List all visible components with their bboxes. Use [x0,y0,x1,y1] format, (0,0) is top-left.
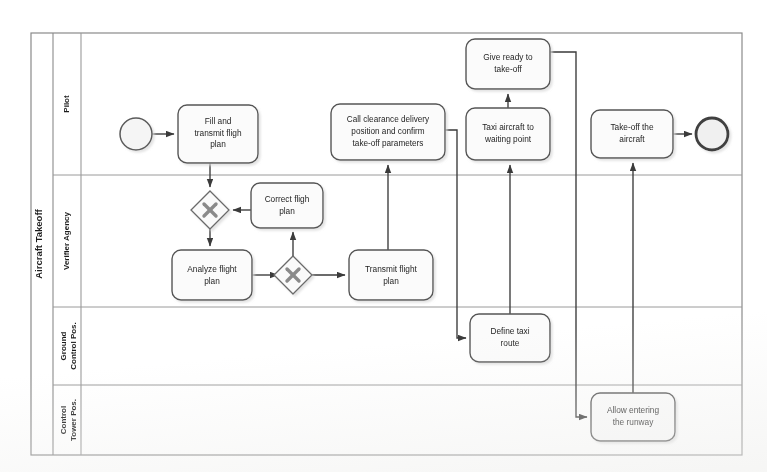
lane-label-pilot: Pilot [62,95,71,113]
aircraft-takeoff-bpmn-diagram: Aircraft Takeoff Pilot Verifier Agency G… [0,0,767,472]
task-label-line1: Take-off the [610,122,654,132]
pool-aircraft-takeoff: Aircraft Takeoff [31,33,742,455]
start-event-circle[interactable] [120,118,152,150]
task-allow-entering-runway[interactable]: Allow entering the runway [591,393,675,441]
task-define-taxi-route[interactable]: Define taxi route [470,314,550,362]
task-label-line2: route [501,338,520,348]
lane-label-ground-control-line1: Ground [59,331,68,360]
lane-label-ground-control-line2: Control Pos. [69,322,78,370]
lane-labels: Pilot Verifier Agency Ground Control Pos… [59,95,78,441]
task-label-line2: plan [279,206,295,216]
task-take-off-the-aircraft[interactable]: Take-off the aircraft [591,110,673,158]
lane-label-control-tower-line2: Tower Pos. [69,399,78,441]
task-label-line2: aircraft [619,134,645,144]
task-label-line3: take-off parameters [353,139,424,148]
task-label-line2: plan [204,276,220,286]
task-label-line1: Allow entering [607,405,660,415]
flow-give-ready-to-allow-entering-runway [550,52,587,417]
task-label-line1: Transmit flight [365,264,417,274]
task-give-ready-to-take-off[interactable]: Give ready to take-off [466,39,550,89]
lane-label-control-tower-line1: Control [59,406,68,434]
task-label-line1: Fill and [205,116,232,126]
lane-label-verifier-agency: Verifier Agency [62,211,71,270]
task-taxi-aircraft-waiting-point[interactable]: Taxi aircraft to waiting point [466,108,550,160]
end-event[interactable] [696,118,728,150]
task-label-line2: transmit fligh [194,128,241,138]
task-label-line2: plan [383,276,399,286]
gateway-plan-check[interactable] [274,256,312,294]
task-call-clearance-delivery[interactable]: Call clearance delivery position and con… [331,104,445,160]
task-label-line2: take-off [494,64,522,74]
bpmn-diagram-canvas: Aircraft Takeoff Pilot Verifier Agency G… [0,0,767,472]
lane-label-ground-control: Ground Control Pos. [59,322,78,370]
task-label-line3: plan [210,139,226,149]
task-label-line1: Give ready to [483,52,533,62]
task-correct-flight-plan[interactable]: Correct fligh plan [251,183,323,228]
task-label-line1: Correct fligh [265,194,310,204]
task-label-line1: Taxi aircraft to [482,122,534,132]
pool-border [31,33,742,455]
pool-label: Aircraft Takeoff [33,208,44,278]
task-label-line2: waiting point [484,134,532,144]
task-label-line1: Define taxi [490,326,529,336]
task-label-line2: the runway [613,417,654,427]
start-event[interactable] [120,118,152,150]
task-label-line1: Analyze flight [187,264,237,274]
end-event-circle[interactable] [696,118,728,150]
task-label-line1: Call clearance delivery [347,115,430,124]
task-analyze-flight-plan[interactable]: Analyze flight plan [172,250,252,300]
lane-label-control-tower: Control Tower Pos. [59,399,78,441]
task-label-line2: position and confirm [351,127,424,136]
gateway-plan-valid[interactable] [191,191,229,229]
task-fill-transmit-flight-plan[interactable]: Fill and transmit fligh plan [178,105,258,163]
task-transmit-flight-plan[interactable]: Transmit flight plan [349,250,433,300]
